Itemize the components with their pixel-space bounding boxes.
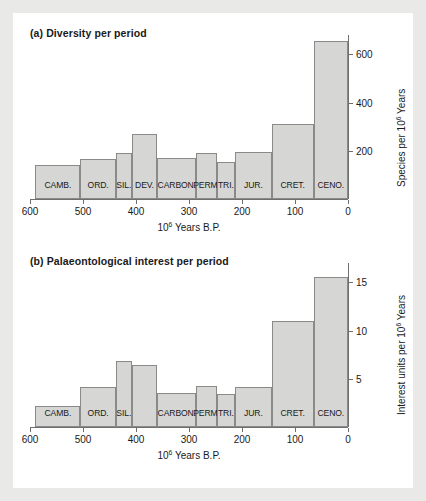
y-axis-title: Interest units per 106 Years [396, 295, 407, 415]
bar [196, 153, 216, 199]
y-axis-tick [349, 282, 353, 283]
x-axis-tick [136, 200, 137, 204]
bar-label: CARBON. [158, 180, 196, 190]
bar-label: CAMB. [44, 180, 71, 190]
x-axis-tick [189, 200, 190, 204]
x-axis-tick [83, 428, 84, 432]
x-axis-tick-label: 400 [128, 434, 145, 445]
x-axis-tick [295, 200, 296, 204]
bar-label: SIL. [116, 408, 131, 418]
bar-label: ORD. [88, 408, 109, 418]
bar-label: ORD. [88, 180, 109, 190]
x-axis-tick [295, 428, 296, 432]
x-axis-tick-label: 500 [75, 206, 92, 217]
bar-label: CRET. [280, 408, 304, 418]
x-axis-tick [242, 200, 243, 204]
y-axis-tick [349, 103, 353, 104]
bar [116, 153, 132, 199]
y-axis-tick [349, 379, 353, 380]
bar-label: CENO. [317, 408, 344, 418]
x-axis-tick [189, 428, 190, 432]
bar-label: CARBON. [158, 408, 196, 418]
chart-panel-a: (a) Diversity per period CAMB.ORD.SIL.DE… [13, 13, 413, 250]
y-axis-tick-label: 5 [356, 373, 362, 384]
bar-label: CRET. [280, 180, 304, 190]
y-axis-tick-label: 600 [356, 49, 373, 60]
x-axis-tick-label: 200 [234, 206, 251, 217]
x-axis-tick-label: 0 [345, 434, 351, 445]
x-axis-tick-label: 100 [287, 434, 304, 445]
bar-label: CAMB. [44, 408, 71, 418]
x-axis-tick [242, 428, 243, 432]
y-axis-line [348, 263, 349, 427]
bar [196, 386, 216, 427]
bar-label: JUR. [244, 180, 263, 190]
x-axis-tick-label: 200 [234, 434, 251, 445]
x-axis-tick-label: 100 [287, 206, 304, 217]
bar [157, 158, 196, 199]
x-axis-title: 106 Years B.P. [157, 222, 220, 233]
x-axis-tick-label: 500 [75, 434, 92, 445]
x-axis-tick [136, 428, 137, 432]
x-axis-tick-label: 600 [22, 434, 39, 445]
bar-label: TRI. [218, 408, 234, 418]
x-axis-tick [30, 428, 31, 432]
x-axis-tick-label: 300 [181, 206, 198, 217]
bar [314, 277, 348, 427]
chart-panel-b: (b) Palaeontological interest per period… [13, 241, 413, 478]
x-axis-tick-label: 0 [345, 206, 351, 217]
y-axis-tick-label: 200 [356, 145, 373, 156]
y-axis-tick [349, 54, 353, 55]
x-axis-tick-label: 400 [128, 206, 145, 217]
y-axis-tick [349, 331, 353, 332]
panel-a-title: (a) Diversity per period [30, 27, 147, 39]
x-axis-tick [348, 428, 349, 432]
bar-label: CENO. [317, 180, 344, 190]
figure-panel: (a) Diversity per period CAMB.ORD.SIL.DE… [13, 13, 413, 488]
bar [235, 152, 272, 199]
bar [314, 41, 348, 199]
x-axis-title: 106 Years B.P. [157, 450, 220, 461]
x-axis-tick [83, 200, 84, 204]
bar-label: TRI. [218, 180, 234, 190]
y-axis-tick-label: 15 [356, 277, 367, 288]
y-axis-tick [349, 151, 353, 152]
panel-b-title: (b) Palaeontological interest per period [30, 255, 229, 267]
x-axis-tick-label: 600 [22, 206, 39, 217]
x-axis-tick [30, 200, 31, 204]
y-axis-tick-label: 10 [356, 325, 367, 336]
bar-label: DEV. [135, 180, 154, 190]
y-axis-tick-label: 400 [356, 97, 373, 108]
x-axis-tick [348, 200, 349, 204]
bar-label: SIL. [116, 180, 131, 190]
y-axis-title: Species per 106 Years [396, 89, 407, 187]
bar [132, 365, 157, 427]
bar-label: JUR. [244, 408, 263, 418]
x-axis-tick-label: 300 [181, 434, 198, 445]
y-axis-line [348, 35, 349, 199]
